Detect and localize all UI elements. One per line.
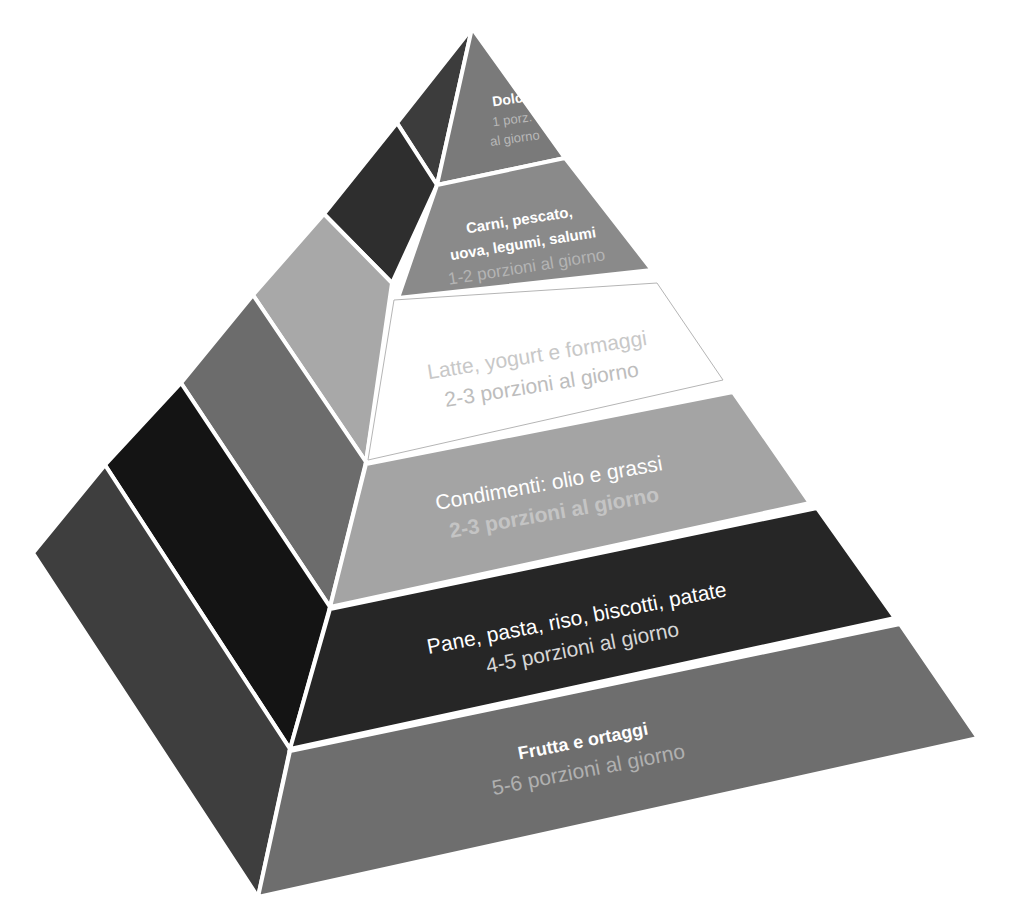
food-pyramid-diagram: Dolci 1 porz. al giorno Carni, pescato, … <box>0 0 1012 924</box>
label-dolci: Dolci 1 porz. al giorno <box>483 88 540 149</box>
